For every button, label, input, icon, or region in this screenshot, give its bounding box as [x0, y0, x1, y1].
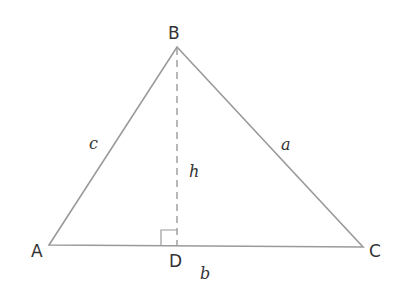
altitude-label-h: h — [189, 162, 199, 181]
vertex-label-d: D — [169, 251, 182, 271]
right-angle-marker — [161, 230, 177, 245]
side-label-c: c — [89, 134, 98, 153]
vertex-label-b: B — [168, 23, 180, 43]
triangle-diagram: B A C D c a b h — [0, 0, 409, 302]
vertex-label-c: C — [369, 241, 381, 261]
side-label-b: b — [200, 264, 210, 283]
vertex-label-a: A — [31, 241, 43, 261]
side-label-a: a — [281, 135, 291, 154]
